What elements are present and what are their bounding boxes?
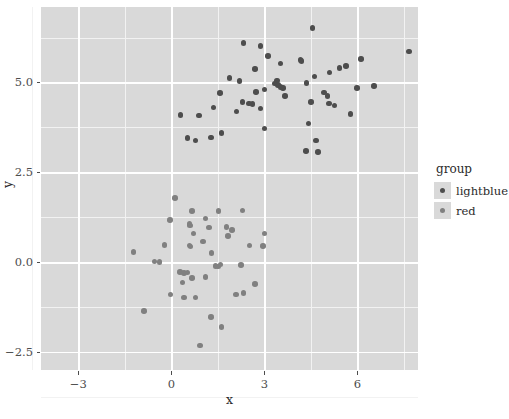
gridline-minor-horizontal: [41, 38, 418, 39]
gridline-minor-vertical: [32, 7, 33, 370]
data-point: [343, 63, 349, 69]
x-tick-mark: [78, 371, 79, 375]
data-point: [209, 250, 215, 256]
data-point: [278, 61, 284, 67]
data-point: [260, 243, 266, 249]
y-tick-mark: [37, 352, 41, 353]
data-point: [258, 43, 264, 49]
data-point: [265, 53, 271, 59]
data-point: [225, 233, 231, 239]
y-axis-title: y: [0, 181, 15, 188]
data-point: [217, 90, 223, 96]
y-tick-label: 5.0: [0, 75, 33, 89]
gridline-minor-vertical: [404, 7, 405, 370]
data-point: [203, 216, 209, 222]
gridline-minor-vertical: [311, 7, 312, 370]
data-point: [252, 281, 258, 287]
legend-key-dot-icon: [440, 208, 446, 214]
data-point: [193, 138, 199, 144]
y-tick-label: 2.5: [0, 165, 33, 179]
gridline-horizontal: [41, 82, 418, 83]
data-point: [234, 109, 240, 115]
gridline-vertical: [171, 7, 172, 370]
data-point: [240, 208, 246, 214]
data-point: [313, 138, 319, 144]
data-point: [371, 83, 377, 89]
data-point: [227, 75, 233, 81]
legend-item-lightblue[interactable]: lightblue: [434, 182, 508, 199]
x-axis-title: x: [41, 392, 418, 407]
data-point: [308, 99, 314, 105]
gridline-minor-vertical: [218, 7, 219, 370]
plot-panel: [41, 7, 418, 370]
legend-key-swatch: [434, 202, 451, 219]
data-point: [258, 106, 264, 112]
gridline-horizontal: [41, 172, 418, 173]
legend-title: group: [434, 162, 508, 176]
gridline-vertical: [264, 7, 265, 370]
data-point: [208, 314, 214, 320]
data-point: [354, 85, 360, 91]
data-point: [332, 103, 338, 109]
data-point: [247, 243, 253, 249]
data-point: [181, 295, 187, 301]
data-point: [325, 93, 331, 99]
data-point: [219, 130, 225, 136]
data-point: [167, 217, 173, 223]
gridline-minor-horizontal: [41, 217, 418, 218]
data-point: [348, 111, 354, 117]
data-point: [189, 275, 195, 281]
data-point: [233, 292, 239, 298]
data-point: [196, 113, 202, 119]
x-tick-mark: [264, 371, 265, 375]
legend: group lightbluered: [434, 162, 508, 222]
data-point: [206, 225, 212, 231]
data-point: [141, 308, 147, 314]
data-point: [229, 227, 235, 233]
data-point: [238, 262, 244, 268]
x-tick-label: −3: [70, 377, 87, 391]
data-point: [180, 280, 186, 286]
data-point: [262, 126, 268, 132]
scatter-plot: −3036−2.50.02.55.0 x y group lightbluere…: [0, 0, 509, 419]
y-tick-mark: [37, 172, 41, 173]
gridline-minor-vertical: [125, 7, 126, 370]
gridline-vertical: [78, 7, 79, 370]
data-point: [178, 112, 184, 118]
data-point: [189, 208, 195, 214]
data-point: [162, 242, 168, 248]
data-point: [157, 259, 163, 265]
data-point: [358, 56, 364, 62]
data-point: [406, 49, 412, 55]
data-point: [315, 149, 321, 155]
legend-key-swatch: [434, 182, 451, 199]
legend-item-red[interactable]: red: [434, 202, 508, 219]
data-point: [193, 295, 199, 301]
y-tick-mark: [37, 262, 41, 263]
x-tick-label: 6: [354, 377, 361, 391]
data-point: [211, 105, 217, 111]
x-tick-label: 3: [261, 377, 268, 391]
data-point: [188, 244, 194, 250]
data-point: [197, 343, 203, 349]
data-point: [312, 74, 318, 80]
data-point: [280, 85, 286, 91]
x-tick-mark: [171, 371, 172, 375]
data-point: [185, 135, 191, 141]
data-point: [252, 66, 258, 72]
data-point: [191, 231, 197, 237]
data-point: [304, 80, 310, 86]
data-point: [282, 93, 288, 99]
data-point: [303, 148, 309, 154]
y-tick-mark: [37, 82, 41, 83]
gridline-horizontal: [41, 352, 418, 353]
y-tick-label: 0.0: [0, 255, 33, 269]
data-point: [262, 87, 268, 93]
data-point: [203, 274, 209, 280]
data-point: [216, 208, 222, 214]
data-point: [310, 25, 316, 31]
data-point: [131, 249, 137, 255]
data-point: [215, 264, 221, 270]
gridline-minor-horizontal: [41, 307, 418, 308]
data-point: [250, 101, 256, 107]
